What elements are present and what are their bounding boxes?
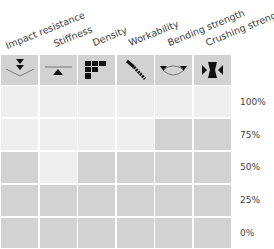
cell-75-crushing [194, 119, 231, 150]
cell-50-stiffness [40, 152, 77, 183]
row-label-0: 0% [240, 228, 254, 238]
cell-75-stiffness [40, 119, 77, 150]
stiffness-icon-cell [40, 55, 77, 85]
density-icon [78, 55, 115, 85]
density-icon-cell [78, 55, 115, 85]
stiffness-icon [40, 55, 77, 85]
cell-0-workability [117, 218, 154, 248]
cell-75-bending [155, 119, 192, 150]
cell-75-impact [1, 119, 38, 150]
bending-strength-icon-cell [155, 55, 192, 85]
cell-25-workability [117, 185, 154, 216]
cell-100-bending [155, 86, 192, 117]
cell-50-crushing [194, 152, 231, 183]
column-label-density: Density [91, 24, 129, 48]
cell-25-density [78, 185, 115, 216]
cell-75-workability [117, 119, 154, 150]
cell-100-crushing [194, 86, 231, 117]
cell-100-workability [117, 86, 154, 117]
workability-icon-cell [117, 55, 154, 85]
cell-50-impact [1, 152, 38, 183]
cell-100-stiffness [40, 86, 77, 117]
crushing-strength-icon-cell [194, 55, 231, 85]
impact-resistance-icon-cell [1, 55, 38, 85]
row-label-100: 100% [240, 97, 266, 107]
cell-25-impact [1, 185, 38, 216]
cell-50-density [78, 152, 115, 183]
cell-0-impact [1, 218, 38, 248]
bending-strength-icon [155, 55, 192, 85]
cell-50-workability [117, 152, 154, 183]
cell-100-impact [1, 86, 38, 117]
cell-0-bending [155, 218, 192, 248]
crushing-strength-icon [194, 55, 231, 85]
cell-25-crushing [194, 185, 231, 216]
workability-icon [117, 55, 154, 85]
cell-50-bending [155, 152, 192, 183]
impact-resistance-icon [1, 55, 38, 85]
row-label-50: 50% [240, 162, 260, 172]
cell-0-stiffness [40, 218, 77, 248]
row-label-75: 75% [240, 130, 260, 140]
row-label-25: 25% [240, 195, 260, 205]
cell-0-crushing [194, 218, 231, 248]
cell-100-density [78, 86, 115, 117]
cell-0-density [78, 218, 115, 248]
cell-75-density [78, 119, 115, 150]
cell-25-bending [155, 185, 192, 216]
cell-25-stiffness [40, 185, 77, 216]
